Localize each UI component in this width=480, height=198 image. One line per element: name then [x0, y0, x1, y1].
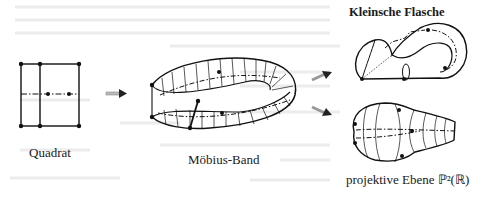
square-shape	[19, 62, 81, 128]
label-klein-bottle: Kleinsche Flasche	[349, 5, 444, 20]
topology-diagram	[0, 0, 480, 198]
arrow-icon	[312, 71, 332, 80]
arrow-icon	[106, 89, 127, 98]
label-moebius-band: Möbius-Band	[188, 152, 260, 168]
arrow-icon	[312, 107, 332, 116]
moebius-band-shape	[150, 58, 296, 130]
projective-plane-shape	[353, 103, 455, 162]
label-projective-plane: projektive Ebene ℙ²(ℝ)	[346, 172, 469, 188]
klein-bottle-shape	[356, 23, 467, 81]
label-square: Quadrat	[29, 145, 71, 161]
